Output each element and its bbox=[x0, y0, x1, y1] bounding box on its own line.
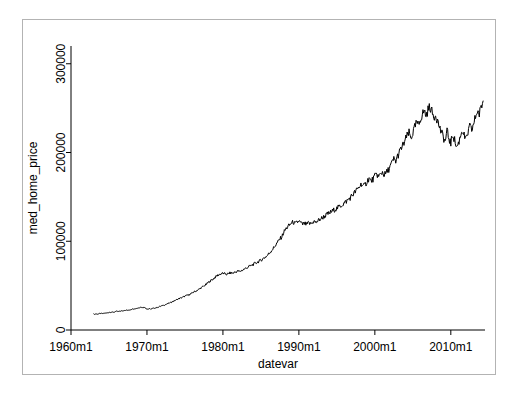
x-tick-label: 2000m1 bbox=[353, 340, 397, 354]
y-tick-label: 100000 bbox=[54, 221, 68, 261]
graph-outer-frame: 0100000200000300000 1960m11970m11980m119… bbox=[22, 19, 496, 375]
x-axis-title: datevar bbox=[258, 357, 298, 371]
y-tick-group: 0100000200000300000 bbox=[54, 43, 71, 333]
data-series-line bbox=[94, 101, 483, 314]
x-tick-group: 1960m11970m11980m11990m12000m12010m1 bbox=[49, 330, 473, 354]
x-tick-label: 1980m1 bbox=[201, 340, 245, 354]
y-tick-label: 0 bbox=[54, 326, 68, 333]
y-tick-label: 200000 bbox=[54, 132, 68, 172]
x-tick-label: 1990m1 bbox=[277, 340, 321, 354]
x-tick-label: 1970m1 bbox=[125, 340, 169, 354]
stata-graph-window: 0100000200000300000 1960m11970m11980m119… bbox=[0, 0, 514, 394]
y-axis-title: med_home_price bbox=[26, 141, 40, 234]
line-chart: 0100000200000300000 1960m11970m11980m119… bbox=[23, 20, 495, 374]
y-tick-label: 300000 bbox=[54, 43, 68, 83]
x-tick-label: 1960m1 bbox=[49, 340, 93, 354]
x-tick-label: 2010m1 bbox=[429, 340, 473, 354]
